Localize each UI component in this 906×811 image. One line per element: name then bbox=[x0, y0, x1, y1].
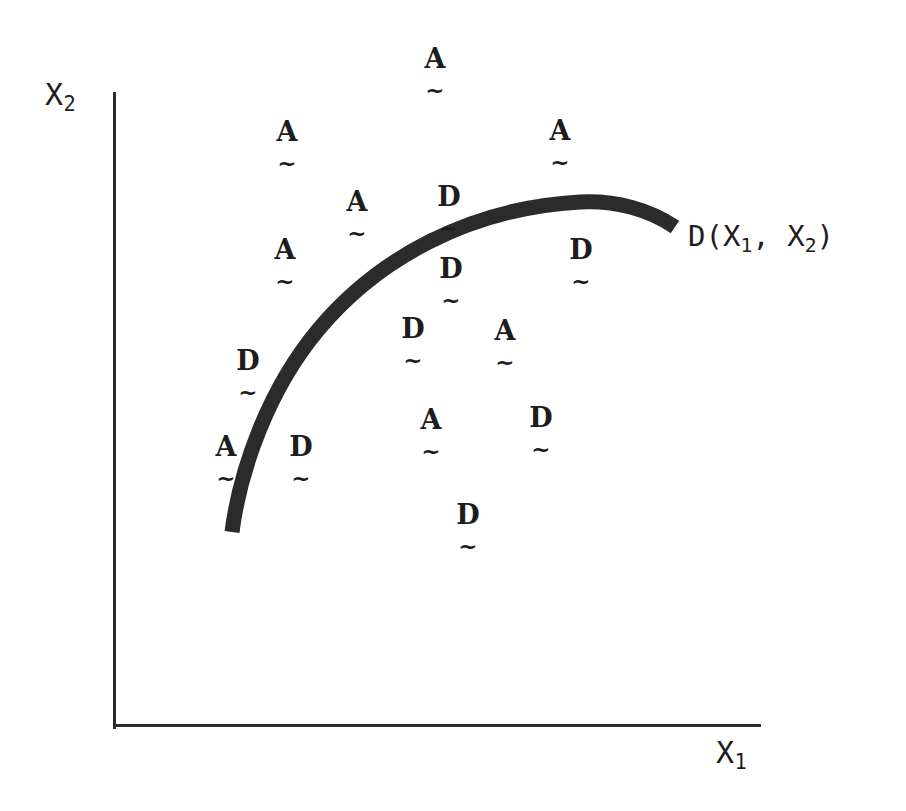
y-axis-label-text: X bbox=[45, 77, 64, 112]
curve-label-middle: , X bbox=[752, 219, 804, 253]
marker-vector-tilde: ~ bbox=[434, 288, 468, 311]
marker-vector-tilde: ~ bbox=[451, 534, 485, 557]
x-axis-label: X1 bbox=[716, 738, 747, 773]
marker-letter: D bbox=[284, 433, 318, 460]
marker-vector-tilde: ~ bbox=[543, 150, 577, 173]
marker-vector-tilde: ~ bbox=[524, 437, 558, 460]
marker-vector-tilde: ~ bbox=[340, 221, 374, 244]
marker-letter: A bbox=[414, 406, 448, 433]
marker-vector-tilde: ~ bbox=[432, 216, 466, 239]
marker-vector-tilde: ~ bbox=[488, 350, 522, 373]
scatter-marker-a: A~ bbox=[418, 45, 452, 101]
scatter-marker-d: D~ bbox=[231, 347, 265, 403]
curve-label-subscript-1: 1 bbox=[740, 234, 752, 257]
marker-letter: A bbox=[543, 117, 577, 144]
scatter-marker-a: A~ bbox=[543, 117, 577, 173]
marker-letter: D bbox=[564, 236, 598, 263]
marker-letter: A bbox=[270, 118, 304, 145]
scatter-marker-d: D~ bbox=[524, 404, 558, 460]
x-axis-label-subscript: 1 bbox=[735, 750, 747, 774]
x-axis-label-text: X bbox=[716, 735, 735, 770]
curve-label-prefix: D(X bbox=[688, 219, 740, 253]
x-axis-line bbox=[113, 724, 761, 727]
marker-letter: D bbox=[524, 404, 558, 431]
scatter-marker-a: A~ bbox=[209, 433, 243, 489]
marker-letter: A bbox=[209, 433, 243, 460]
marker-letter: D bbox=[231, 347, 265, 374]
marker-vector-tilde: ~ bbox=[231, 380, 265, 403]
scatter-marker-a: A~ bbox=[414, 406, 448, 462]
decision-boundary-curve bbox=[0, 0, 906, 811]
marker-vector-tilde: ~ bbox=[564, 269, 598, 292]
scatter-marker-d: D~ bbox=[451, 501, 485, 557]
marker-vector-tilde: ~ bbox=[284, 466, 318, 489]
marker-letter: D bbox=[396, 315, 430, 342]
y-axis-label-subscript: 2 bbox=[64, 92, 76, 116]
y-axis-label: X2 bbox=[45, 80, 76, 115]
marker-letter: A bbox=[418, 45, 452, 72]
scatter-marker-d: D~ bbox=[434, 255, 468, 311]
scatter-marker-a: A~ bbox=[340, 188, 374, 244]
marker-letter: D bbox=[434, 255, 468, 282]
decision-boundary-label: D(X1, X2) bbox=[688, 222, 834, 256]
marker-vector-tilde: ~ bbox=[396, 348, 430, 371]
marker-vector-tilde: ~ bbox=[418, 78, 452, 101]
figure-canvas: X2 X1 D(X1, X2) A~A~A~A~D~A~D~D~D~A~D~A~… bbox=[0, 0, 906, 811]
curve-label-suffix: ) bbox=[817, 219, 834, 253]
marker-letter: D bbox=[451, 501, 485, 528]
curve-label-subscript-2: 2 bbox=[805, 234, 817, 257]
marker-letter: D bbox=[432, 183, 466, 210]
scatter-marker-d: D~ bbox=[564, 236, 598, 292]
marker-vector-tilde: ~ bbox=[270, 151, 304, 174]
marker-vector-tilde: ~ bbox=[268, 269, 302, 292]
scatter-marker-d: D~ bbox=[396, 315, 430, 371]
y-axis-line bbox=[113, 92, 116, 729]
scatter-marker-d: D~ bbox=[284, 433, 318, 489]
scatter-marker-a: A~ bbox=[488, 317, 522, 373]
marker-letter: A bbox=[268, 236, 302, 263]
marker-letter: A bbox=[488, 317, 522, 344]
scatter-marker-d: D~ bbox=[432, 183, 466, 239]
scatter-marker-a: A~ bbox=[270, 118, 304, 174]
marker-letter: A bbox=[340, 188, 374, 215]
marker-vector-tilde: ~ bbox=[414, 439, 448, 462]
scatter-marker-a: A~ bbox=[268, 236, 302, 292]
marker-vector-tilde: ~ bbox=[209, 466, 243, 489]
